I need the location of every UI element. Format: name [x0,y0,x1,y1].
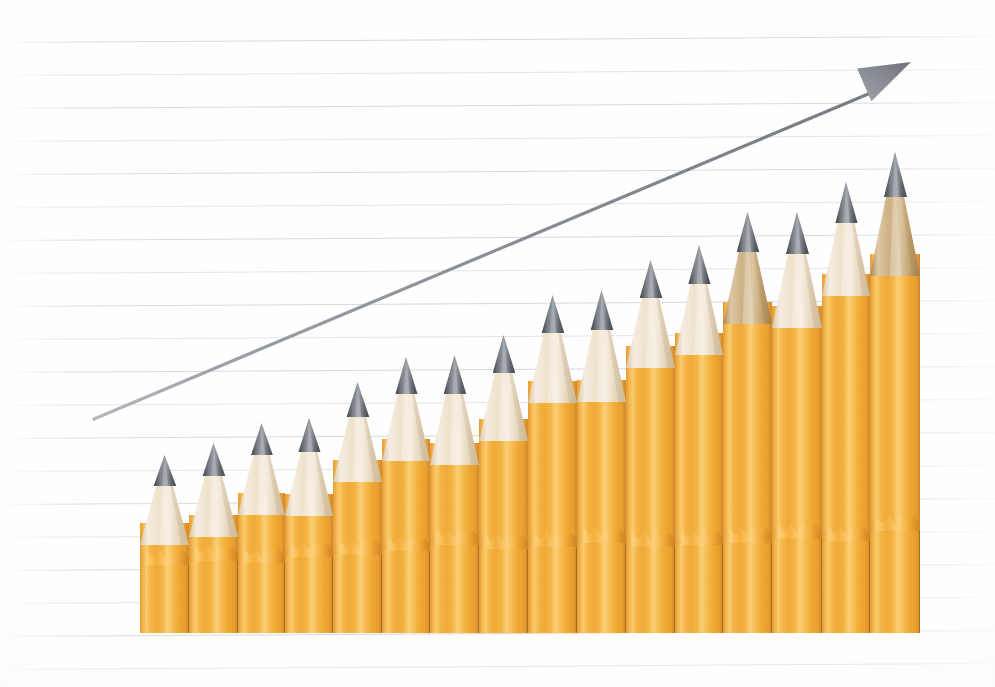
pencil-facet-collar [285,543,333,557]
pencil-facet-collar [870,516,920,531]
pencil-bar-13[interactable] [723,212,772,633]
pencil-bar-10[interactable] [577,290,626,633]
pencil-edge-seam [381,555,382,633]
pencil-graphite-tip [479,335,528,373]
pencil-facet-collar [822,527,870,541]
pencil-bar-05[interactable] [333,382,382,633]
pencil-bar-02[interactable] [189,443,238,633]
pencil-facet-collar [528,532,577,547]
pencil-edge-seam [429,551,430,633]
pencil-graphite-tip [333,382,382,417]
pencil-barrel [577,380,626,633]
pencil-bar-11[interactable] [626,260,675,633]
pencil-facet-collar [430,530,479,545]
pencil-growth-chart-scene [0,0,995,687]
pencil-bar-01[interactable] [140,455,189,633]
pencil-edge-seam [284,563,285,633]
pencil-facet-collar [577,528,626,543]
pencil-graphite-tip [577,290,626,330]
pencil-barrel [723,302,772,633]
pencil-bar-08[interactable] [479,335,528,633]
pencil-graphite-tip [626,260,675,298]
pencil-facet-collar [238,549,285,563]
pencil-graphite-tip [822,182,870,223]
pencil-graphite-tip [238,423,285,455]
pencil-facet-collar [140,550,189,565]
pencil-barrel [870,254,920,633]
pencil-bar-04[interactable] [285,418,333,633]
pencil-edge-seam [625,543,626,633]
pencil-edge-seam [722,545,723,633]
pencil-bar-09[interactable] [528,295,577,633]
pencil-edge-seam [237,561,238,633]
pencil-graphite-tip [382,357,430,394]
pencil-barrel [675,333,723,633]
pencil-facet-collar [723,528,772,543]
pencil-graphite-tip [528,295,577,333]
pencil-facet-collar [626,532,675,547]
pencil-barrel [822,274,870,633]
pencil-facet-collar [333,540,382,555]
pencil-facet-collar [772,524,822,539]
pencil-edge-seam [332,557,333,633]
pencil-facet-collar [189,546,238,561]
pencil-barrel [382,439,430,633]
pencil-facet-collar [479,534,528,549]
pencil-edge-seam [527,549,528,633]
pencil-edge-seam [188,565,189,633]
pencil-barrel [479,419,528,633]
pencil-graphite-tip [285,418,333,452]
pencil-bar-06[interactable] [382,357,430,633]
pencil-facet-collar [675,531,723,545]
pencil-edge-seam [674,547,675,633]
pencil-graphite-tip [140,455,189,486]
pencil-edge-seam [919,531,920,633]
pencil-bar-15[interactable] [822,182,870,633]
pencil-edge-seam [478,545,479,633]
pencil-bar-07[interactable] [430,355,479,633]
pencil-bars-group [0,0,995,687]
pencil-bar-14[interactable] [772,212,822,633]
pencil-facet-collar [382,537,430,551]
pencil-graphite-tip [675,245,723,284]
pencil-graphite-tip [870,152,920,197]
pencil-edge-seam [771,543,772,633]
pencil-graphite-tip [723,212,772,252]
pencil-bar-03[interactable] [238,423,285,633]
pencil-barrel [528,381,577,633]
pencil-barrel [772,306,822,633]
pencil-barrel [626,346,675,633]
pencil-bar-16[interactable] [870,152,920,633]
pencil-graphite-tip [772,212,822,254]
pencil-graphite-tip [189,443,238,476]
pencil-bar-12[interactable] [675,245,723,633]
pencil-edge-seam [869,541,870,633]
pencil-edge-seam [576,547,577,633]
pencil-edge-seam [821,539,822,633]
pencil-graphite-tip [430,355,479,394]
